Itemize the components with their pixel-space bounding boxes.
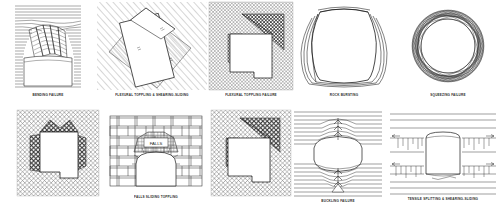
top-row: BENDING FAILURE [0,0,502,107]
panel-caption: BENDING FAILURE [32,93,63,98]
panel-falls-masonry-arch: FALLS FALLS SLIDING TOPPLING [106,108,206,215]
panel-squeezing-failure: SQUEEZING FAILURE [398,0,498,107]
flexural-toppling-shearing-sliding-art [97,0,207,92]
falls-annotation-label: FALLS [150,141,163,146]
bottom-row: FALLS SLIDING TOPPLING [0,108,502,215]
panel-caption: BUCKLING FAILURE [321,199,354,204]
panel-caption: ROCK BURSTING [330,93,358,98]
panel-caption: FLEXURAL TOPPLING FAILURE [225,93,277,98]
falls-masonry-arch-art: FALLS [108,108,204,194]
panel-buckling-failure: BUCKLING FAILURE [290,108,386,215]
panel-falls-sliding-toppling-right: FALLS SLIDING TOPPLING [208,108,294,215]
panel-flexural-toppling-shearing-sliding: FLEXURAL TOPPLING & SHEARING-SLIDING [96,0,208,107]
panel-caption: FLEXURAL TOPPLING & SHEARING-SLIDING [115,93,188,98]
failure-modes-figure: BENDING FAILURE [0,0,502,215]
squeezing-failure-art [400,0,496,92]
falls-sliding-toppling-art [16,108,100,198]
panel-rock-bursting: ROCK BURSTING [296,0,392,107]
bending-failure-art [12,0,84,92]
buckling-failure-art [292,108,384,198]
flexural-toppling-failure-art [208,0,294,92]
tensile-splitting-shearing-sliding-art [388,108,498,196]
panel-caption: TENSILE SPLITTING & SHEARING-SLIDING [408,197,478,202]
panel-falls-sliding-toppling: FALLS SLIDING TOPPLING [14,108,102,215]
panel-flexural-toppling-failure: FLEXURAL TOPPLING FAILURE [206,0,296,107]
panel-caption: SQUEEZING FAILURE [430,93,465,98]
falls-sliding-toppling-right-art [210,108,292,198]
panel-tensile-splitting-shearing-sliding: TENSILE SPLITTING & SHEARING-SLIDING [386,108,500,215]
rock-bursting-art [298,0,390,92]
panel-caption: FALLS SLIDING TOPPLING [134,195,178,200]
panel-bending-failure: BENDING FAILURE [8,0,88,107]
